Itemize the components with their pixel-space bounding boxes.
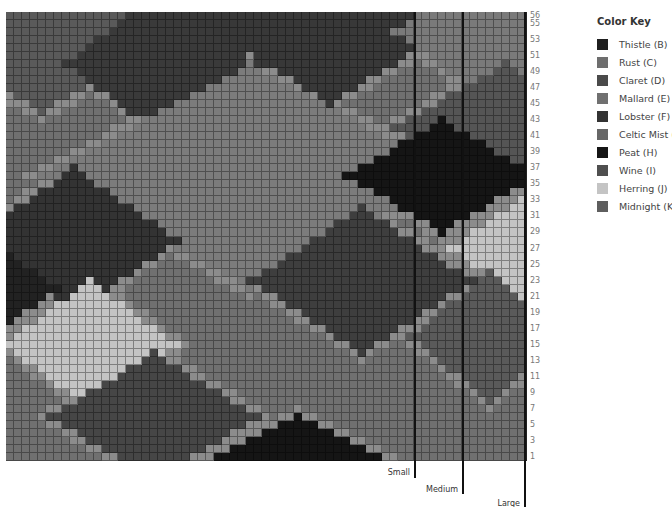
- grid-cell: [126, 301, 134, 309]
- grid-cell: [510, 92, 518, 100]
- grid-cell: [78, 365, 86, 373]
- grid-cell: [70, 429, 78, 437]
- grid-cell: [390, 220, 398, 228]
- grid-cell: [302, 301, 310, 309]
- grid-cell: [406, 301, 414, 309]
- grid-cell: [6, 20, 14, 28]
- grid-cell: [238, 277, 246, 285]
- grid-cell: [430, 156, 438, 164]
- grid-cell: [174, 421, 182, 429]
- grid-cell: [334, 172, 342, 180]
- grid-cell: [286, 164, 294, 172]
- grid-cell: [86, 341, 94, 349]
- grid-cell: [478, 36, 486, 44]
- grid-cell: [22, 172, 30, 180]
- grid-cell: [382, 453, 390, 461]
- grid-cell: [478, 180, 486, 188]
- grid-cell: [6, 196, 14, 204]
- grid-cell: [486, 76, 494, 84]
- grid-cell: [150, 341, 158, 349]
- grid-cell: [22, 269, 30, 277]
- grid-cell: [334, 237, 342, 245]
- grid-cell: [150, 429, 158, 437]
- grid-cell: [174, 36, 182, 44]
- grid-cell: [454, 172, 462, 180]
- grid-cell: [86, 124, 94, 132]
- grid-cell: [166, 188, 174, 196]
- grid-cell: [78, 341, 86, 349]
- grid-cell: [342, 132, 350, 140]
- grid-cell: [126, 397, 134, 405]
- grid-cell: [358, 100, 366, 108]
- grid-cell: [46, 124, 54, 132]
- grid-cell: [182, 397, 190, 405]
- grid-cell: [142, 333, 150, 341]
- grid-cell: [470, 269, 478, 277]
- grid-cell: [510, 317, 518, 325]
- grid-cell: [118, 261, 126, 269]
- grid-cell: [14, 421, 22, 429]
- grid-cell: [342, 68, 350, 76]
- grid-cell: [158, 349, 166, 357]
- grid-cell: [126, 349, 134, 357]
- grid-cell: [94, 44, 102, 52]
- grid-cell: [54, 124, 62, 132]
- grid-cell: [198, 76, 206, 84]
- grid-cell: [510, 52, 518, 60]
- color-swatch-icon: [597, 147, 608, 158]
- grid-cell: [134, 188, 142, 196]
- grid-cell: [134, 381, 142, 389]
- grid-cell: [390, 357, 398, 365]
- grid-cell: [190, 389, 198, 397]
- grid-cell: [38, 237, 46, 245]
- grid-cell: [190, 325, 198, 333]
- grid-cell: [486, 261, 494, 269]
- grid-cell: [134, 108, 142, 116]
- grid-cell: [254, 60, 262, 68]
- grid-cell: [70, 132, 78, 140]
- grid-cell: [478, 220, 486, 228]
- grid-cell: [38, 445, 46, 453]
- grid-cell: [214, 389, 222, 397]
- grid-cell: [358, 76, 366, 84]
- grid-cell: [214, 445, 222, 453]
- grid-cell: [510, 381, 518, 389]
- grid-cell: [38, 405, 46, 413]
- grid-cell: [478, 12, 486, 20]
- grid-cell: [510, 349, 518, 357]
- grid-cell: [6, 140, 14, 148]
- grid-cell: [206, 20, 214, 28]
- grid-cell: [198, 204, 206, 212]
- pattern-grid: [6, 12, 526, 461]
- grid-cell: [382, 405, 390, 413]
- grid-cell: [150, 52, 158, 60]
- grid-cell: [118, 437, 126, 445]
- grid-cell: [286, 172, 294, 180]
- grid-cell: [174, 429, 182, 437]
- grid-cell: [270, 285, 278, 293]
- grid-cell: [134, 325, 142, 333]
- grid-cell: [446, 285, 454, 293]
- grid-cell: [62, 237, 70, 245]
- grid-cell: [270, 20, 278, 28]
- grid-cell: [406, 20, 414, 28]
- grid-cell: [70, 277, 78, 285]
- grid-cell: [94, 148, 102, 156]
- grid-cell: [198, 269, 206, 277]
- grid-cell: [158, 172, 166, 180]
- grid-cell: [182, 285, 190, 293]
- grid-cell: [286, 124, 294, 132]
- grid-cell: [46, 237, 54, 245]
- grid-cell: [270, 397, 278, 405]
- grid-cell: [430, 349, 438, 357]
- grid-cell: [142, 429, 150, 437]
- grid-cell: [470, 285, 478, 293]
- grid-cell: [158, 389, 166, 397]
- grid-cell: [206, 309, 214, 317]
- grid-cell: [398, 124, 406, 132]
- grid-cell: [222, 156, 230, 164]
- grid-cell: [38, 124, 46, 132]
- grid-cell: [310, 349, 318, 357]
- grid-cell: [70, 60, 78, 68]
- grid-cell: [454, 437, 462, 445]
